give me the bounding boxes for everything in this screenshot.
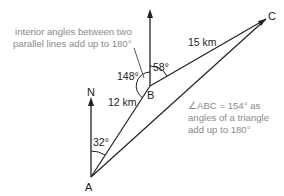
angle-148-label: 148° — [117, 70, 139, 82]
angle-58-label: 58° — [153, 61, 169, 73]
north-arrow-b-icon — [147, 9, 153, 18]
segment-bc — [150, 19, 266, 86]
north-label: N — [87, 86, 95, 98]
distance-ab-label: 12 km — [108, 96, 137, 108]
parallel-note-line1: interior angles between two — [15, 26, 132, 37]
parallel-note-line2: parallel lines add up to 180° — [13, 38, 132, 49]
angle-arc-a — [91, 151, 105, 155]
north-arrow-a-icon — [88, 97, 94, 106]
point-b-label: B — [147, 89, 154, 101]
angle-a-label: 32° — [93, 136, 109, 148]
bearing-diagram: N A B C 12 km 15 km 32° 148° 58° interio… — [0, 0, 284, 196]
point-a-label: A — [85, 181, 93, 193]
distance-bc-label: 15 km — [188, 36, 217, 48]
triangle-note-line2: angles of a triangle — [188, 112, 269, 123]
triangle-note-line3: add up to 180° — [188, 124, 251, 135]
triangle-note-line1: ∠ABC = 154° as — [188, 100, 261, 111]
point-c-label: C — [268, 10, 276, 22]
